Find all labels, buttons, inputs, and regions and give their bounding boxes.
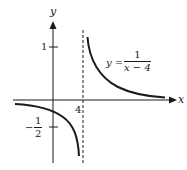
equation-numerator: 1 <box>133 50 141 60</box>
equation-lhs-text: y = <box>106 57 123 68</box>
fraction-denominator: 2 <box>35 129 41 139</box>
y-tick-neg-sign: − <box>25 123 33 133</box>
x-axis-arrow-icon <box>169 97 177 104</box>
graph-canvas <box>0 0 187 170</box>
equation-fraction: 1 x − 4 <box>124 50 151 73</box>
fraction-numerator: 1 <box>34 116 42 126</box>
y-axis-label: y <box>50 6 56 17</box>
equation-lhs: y = <box>106 58 123 68</box>
y-axis-arrow-icon <box>50 21 57 29</box>
y-tick-label-1: 1 <box>41 42 47 52</box>
x-tick-label-4: 4 <box>75 105 81 115</box>
x-axis-label: x <box>178 94 184 105</box>
y-tick-label-neg-half: 1 2 <box>34 116 42 139</box>
equation-denominator: x − 4 <box>124 63 151 73</box>
